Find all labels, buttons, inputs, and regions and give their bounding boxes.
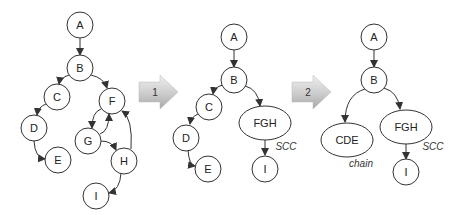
node-b: B: [67, 55, 93, 81]
edge-b-fgh: [245, 86, 260, 106]
svg-text:E: E: [54, 154, 61, 166]
svg-text:B: B: [76, 62, 83, 74]
node-cde: CDE: [321, 123, 373, 157]
edge-c-d: [190, 114, 198, 124]
svg-text:C: C: [205, 101, 213, 113]
node-a: A: [361, 24, 387, 50]
node-a: A: [67, 12, 93, 38]
node-a: A: [221, 24, 247, 50]
node-d: D: [21, 115, 47, 141]
svg-text:D: D: [182, 132, 190, 144]
node-i: I: [83, 183, 109, 209]
graph-chain-collapsed: A B CDE FGH I chain SCC: [321, 24, 444, 185]
right-arrow-icon: [292, 75, 331, 109]
svg-text:B: B: [230, 74, 237, 86]
svg-text:D: D: [30, 122, 38, 134]
svg-text:CDE: CDE: [335, 134, 358, 146]
svg-text:B: B: [370, 74, 377, 86]
edge-g-f: [100, 114, 109, 134]
graph-original: A B C D E F G H I: [21, 12, 137, 209]
edge-g-h: [101, 141, 116, 150]
edge-d-e: [34, 141, 45, 159]
node-b: B: [221, 67, 247, 93]
step-1-label: 1: [152, 87, 158, 98]
svg-text:G: G: [84, 135, 93, 147]
step-arrow-1: 1: [139, 75, 178, 109]
edge-b-c: [59, 75, 69, 84]
svg-text:F: F: [109, 95, 116, 107]
edge-b-fgh: [384, 88, 400, 109]
step-arrow-2: 2: [292, 75, 331, 109]
graph-scc-collapsed: A B C D E FGH I SCC: [173, 24, 297, 182]
node-c: C: [44, 84, 70, 110]
chain-annotation: chain: [349, 158, 373, 169]
scc-annotation: SCC: [422, 141, 444, 152]
right-arrow-icon: [139, 75, 178, 109]
graph-reduction-diagram: A B C D E F G H I 1 A B C D E FGH I SCC …: [0, 0, 464, 215]
node-e: E: [195, 156, 221, 182]
edge-c-d: [37, 104, 46, 115]
node-b: B: [361, 67, 387, 93]
node-fgh: FGH: [380, 110, 432, 144]
svg-text:C: C: [53, 91, 61, 103]
svg-text:I: I: [263, 163, 266, 175]
edge-b-f: [91, 75, 107, 88]
scc-annotation: SCC: [275, 141, 297, 152]
svg-text:FGH: FGH: [394, 121, 417, 133]
node-i: I: [393, 159, 419, 185]
node-f: F: [99, 88, 125, 114]
node-h: H: [111, 148, 137, 174]
step-2-label: 2: [305, 87, 311, 98]
svg-text:I: I: [94, 190, 97, 202]
node-e: E: [45, 147, 71, 173]
svg-text:A: A: [76, 19, 84, 31]
edge-f-g: [92, 109, 101, 128]
svg-text:FGH: FGH: [253, 117, 276, 129]
node-fgh: FGH: [239, 106, 291, 140]
edge-b-c: [213, 85, 223, 94]
svg-text:I: I: [404, 166, 407, 178]
node-c: C: [196, 94, 222, 120]
node-i: I: [252, 156, 278, 182]
svg-text:A: A: [370, 31, 378, 43]
node-d: D: [173, 125, 199, 151]
edge-h-f: [122, 111, 131, 149]
edge-d-e: [188, 150, 195, 166]
edge-h-i: [109, 173, 121, 193]
svg-text:E: E: [204, 163, 211, 175]
svg-text:A: A: [230, 31, 238, 43]
svg-text:H: H: [120, 155, 128, 167]
node-g: G: [75, 128, 101, 154]
edge-b-cde: [345, 89, 365, 122]
